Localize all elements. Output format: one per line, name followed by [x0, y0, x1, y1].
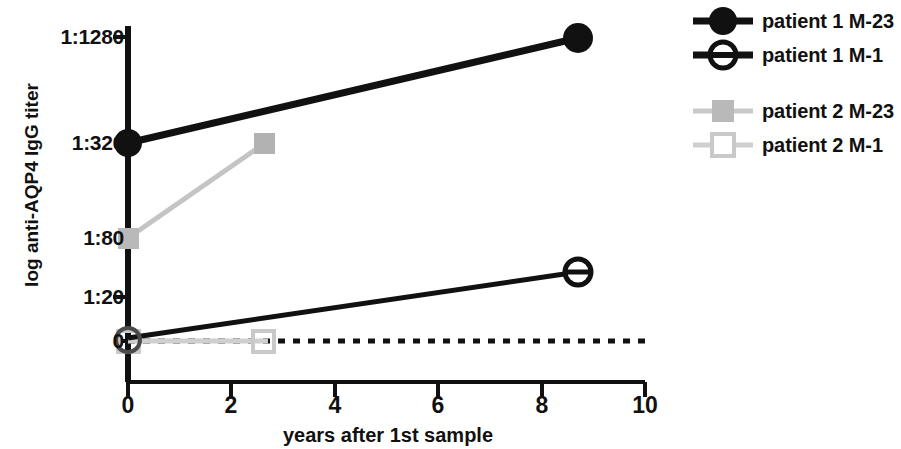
- data-point-marker: [563, 23, 593, 53]
- y-tick-label-1280: 1:1280: [60, 26, 124, 47]
- legend-label: patient 1 M-1: [756, 44, 883, 67]
- y-axis-tick-labels: 1:1280 1:320 1:80 1:20 0: [0, 0, 124, 449]
- legend-label: patient 1 M-23: [756, 10, 894, 33]
- legend-label: patient 2 M-23: [756, 100, 894, 123]
- chart-figure: 1:1280 1:320 1:80 1:20 0 0 2 4 6 8 10 lo…: [0, 0, 901, 449]
- x-tick-label-6: 6: [408, 394, 468, 417]
- y-axis-title: log anti-AQP4 IgG titer: [21, 65, 43, 305]
- x-tick-label-4: 4: [305, 394, 365, 417]
- legend-item-patient-1-m1[interactable]: patient 1 M-1: [690, 38, 901, 72]
- y-tick-label-0: 0: [113, 330, 124, 351]
- series-patient-1-m1: [116, 259, 591, 352]
- y-tick-label-20: 1:20: [83, 286, 124, 307]
- filled-square-marker-icon: [690, 94, 756, 128]
- x-tick-label-0: 0: [98, 394, 158, 417]
- x-tick-label-8: 8: [512, 394, 572, 417]
- legend-item-patient-2-m23[interactable]: patient 2 M-23: [690, 94, 901, 128]
- legend-item-patient-2-m1[interactable]: patient 2 M-1: [690, 128, 901, 162]
- open-circle-marker-icon: [690, 38, 756, 72]
- legend-item-patient-1-m23[interactable]: patient 1 M-23: [690, 4, 901, 38]
- filled-circle-marker-icon: [690, 4, 756, 38]
- y-tick-label-80: 1:80: [83, 227, 124, 248]
- data-point-marker: [254, 133, 275, 154]
- legend-label: patient 2 M-1: [756, 134, 883, 157]
- chart-legend: patient 1 M-23 patient 1 M-1 patient 2 M…: [690, 4, 901, 162]
- open-square-marker-icon: [690, 128, 756, 162]
- x-tick-label-2: 2: [201, 394, 261, 417]
- series-patient-1-m23: [114, 23, 593, 157]
- x-axis-title: years after 1st sample: [128, 424, 648, 447]
- x-tick-label-10: 10: [615, 394, 675, 417]
- y-tick-label-320: 1:320: [72, 132, 124, 153]
- series-patient-2-m23: [118, 133, 275, 249]
